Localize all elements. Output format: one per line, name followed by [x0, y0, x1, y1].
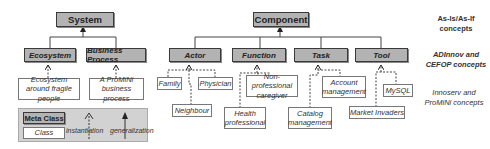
meta-class-function: Function [232, 48, 286, 62]
class-health-professional: Health professional [224, 107, 266, 129]
level-innoserv: Innoserv and ProMiNi concepts [421, 88, 487, 108]
meta-class-tool: Tool [355, 48, 408, 62]
filled-arrow-icon [122, 112, 128, 119]
class-account-management: Account management [322, 76, 366, 98]
legend-meta-class: Meta Class [23, 112, 65, 124]
level-adinnov: ADInnov and CEFOP concepts [425, 50, 487, 70]
class-ecosystem-fragile-people: Ecosystem around fragile people [18, 78, 80, 100]
class-physician: Physician [198, 77, 233, 90]
meta-class-actor: Actor [169, 48, 221, 62]
class-promini-business-process: A ProMiNi business process [89, 78, 144, 100]
legend-arrows [79, 111, 149, 141]
legend-class: Class [23, 127, 65, 139]
legend: Meta Class Class instantiation generaliz… [18, 108, 148, 142]
class-market-invaders: Market Invaders [349, 106, 405, 119]
class-mysql: MySQL [383, 84, 413, 97]
meta-class-component: Component [253, 12, 309, 27]
meta-class-business-process: Business Process [86, 48, 146, 62]
class-catalog-management: Catalog management [288, 107, 332, 129]
legend-instantiation: instantiation [66, 127, 103, 134]
meta-class-task: Task [294, 48, 348, 62]
class-non-professional-caregiver: Non-professional caregiver [246, 75, 298, 97]
meta-class-system: System [56, 12, 114, 27]
class-neighbour: Neighbour [172, 104, 212, 117]
level-as-is: As-Is/As-If concepts [425, 14, 487, 34]
legend-generalization: generalization [110, 127, 154, 134]
meta-class-ecosystem: Ecosystem [24, 48, 76, 62]
class-family: Family [157, 77, 182, 90]
